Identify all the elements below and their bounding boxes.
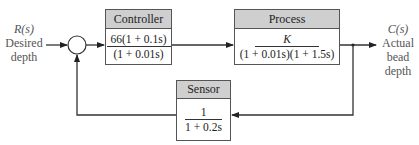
output-line-3: depth [377,64,419,78]
controller-denominator: (1 + 0.01s) [113,47,163,60]
process-denominator: (1 + 0.01s)(1 + 1.5s) [240,47,335,60]
input-line-1: Desired [2,36,46,50]
input-symbol: R(s) [2,22,46,36]
input-label: R(s) Desired depth [2,22,46,64]
sensor-label: Sensor [177,81,230,99]
input-line-2: depth [2,50,46,64]
sensor-numerator: 1 [185,106,223,120]
sensor-transfer-function: 1 1 + 0.2s [177,99,230,140]
controller-block: Controller 66(1 + 0.1s) (1 + 0.01s) [105,9,172,65]
output-symbol: C(s) [377,22,419,36]
controller-transfer-function: 66(1 + 0.1s) (1 + 0.01s) [106,29,171,64]
sensor-denominator: 1 + 0.2s [185,120,222,133]
process-transfer-function: K (1 + 0.01s)(1 + 1.5s) [235,29,339,64]
process-label: Process [235,10,339,29]
output-line-2: bead [377,50,419,64]
summing-junction [68,36,86,54]
output-label: C(s) Actual bead depth [377,22,419,78]
controller-label: Controller [106,10,171,29]
process-block: Process K (1 + 0.01s)(1 + 1.5s) [234,9,340,65]
process-numerator: K [255,33,319,47]
controller-numerator: 66(1 + 0.1s) [107,33,171,47]
output-line-1: Actual [377,36,419,50]
sensor-block: Sensor 1 1 + 0.2s [176,80,231,141]
